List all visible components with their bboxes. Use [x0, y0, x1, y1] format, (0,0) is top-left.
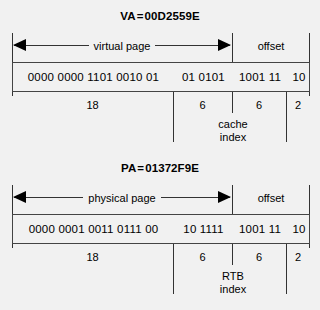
va-diagram: VA=00D2559E virtual page offset 0000 000… — [0, 0, 320, 155]
va-width-row: 18 6 6 2 — [12, 96, 310, 114]
va-bits-group-2: 01 0101 — [174, 63, 233, 91]
pa-caption-rtb-index: RTB index — [188, 270, 278, 296]
pa-caption-line2: index — [188, 283, 278, 296]
va-span-row: virtual page offset — [12, 33, 310, 58]
va-width-2: 6 — [173, 96, 232, 114]
pa-bits-group-1: 0000 0001 0011 0111 00 — [13, 215, 174, 243]
pa-title-prefix: PA — [121, 162, 136, 174]
pa-span-physical-page: physical page — [12, 185, 232, 210]
pa-title-value: 01372F9E — [145, 162, 199, 174]
pa-bits-group-4: 10 — [287, 215, 311, 243]
va-arrow-head-left-icon — [13, 39, 26, 51]
va-caption-line2: index — [188, 131, 278, 144]
pa-title: PA=01372F9E — [0, 162, 320, 174]
va-arrow-head-right-icon — [218, 39, 231, 51]
pa-span-offset: offset — [232, 185, 310, 210]
va-width-1: 18 — [12, 96, 173, 114]
va-bits-group-3: 1001 11 — [233, 63, 287, 91]
pa-bits-group-3: 1001 11 — [233, 215, 287, 243]
va-title-prefix: VA — [120, 10, 135, 22]
va-span-offset: offset — [232, 33, 310, 58]
pa-span-label-physical-page: physical page — [83, 192, 160, 204]
pa-arrow-head-right-icon — [218, 191, 231, 203]
pa-width-row: 18 6 6 2 — [12, 248, 310, 266]
pa-width-2: 6 — [173, 248, 232, 266]
va-bits-group-1: 0000 0000 1101 0010 01 — [13, 63, 174, 91]
pa-title-equals: = — [136, 162, 145, 174]
va-caption-cache-index: cache index — [188, 118, 278, 144]
va-title-value: 00D2559E — [145, 10, 200, 22]
va-width-4: 2 — [286, 96, 310, 114]
pa-arrow-head-left-icon — [13, 191, 26, 203]
pa-width-1: 18 — [12, 248, 173, 266]
pa-span-label-offset: offset — [253, 192, 290, 204]
pa-bits-box: 0000 0001 0011 0111 00 10 1111 1001 11 1… — [12, 214, 310, 244]
va-caption-line1: cache — [188, 118, 278, 131]
va-span-virtual-page: virtual page — [12, 33, 232, 58]
pa-width-3: 6 — [232, 248, 286, 266]
va-title: VA=00D2559E — [0, 10, 320, 22]
va-span-label-virtual-page: virtual page — [89, 40, 156, 52]
pa-width-4: 2 — [286, 248, 310, 266]
va-width-3: 6 — [232, 96, 286, 114]
pa-bits-group-2: 10 1111 — [174, 215, 233, 243]
va-title-equals: = — [136, 10, 145, 22]
pa-diagram: PA=01372F9E physical page offset 0000 00… — [0, 152, 320, 307]
pa-span-row: physical page offset — [12, 185, 310, 210]
va-span-label-offset: offset — [253, 40, 290, 52]
va-bits-box: 0000 0000 1101 0010 01 01 0101 1001 11 1… — [12, 62, 310, 92]
va-bits-group-4: 10 — [287, 63, 311, 91]
pa-caption-line1: RTB — [188, 270, 278, 283]
